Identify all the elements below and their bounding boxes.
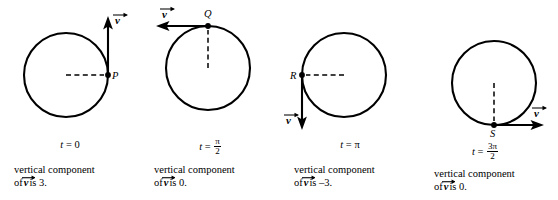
time-variable: t	[472, 146, 475, 157]
caption-line-1: vertical component	[434, 168, 515, 179]
time-value: π	[354, 139, 359, 150]
time-label-2: t = π2	[140, 137, 280, 156]
panel-3: R v t = π vertical component ofvis –3.	[280, 0, 420, 200]
point-label-p: P	[112, 71, 118, 82]
caption-line-1: vertical component	[14, 164, 95, 175]
velocity-label: v	[533, 108, 540, 119]
time-equals: =	[205, 141, 211, 152]
fraction-denominator: 2	[214, 146, 221, 156]
caption-3: vertical component ofvis –3.	[294, 164, 375, 189]
velocity-label: v	[161, 9, 168, 20]
caption-of: of	[434, 181, 443, 192]
panel-3-diagram	[280, 0, 420, 145]
fraction-numerator: 3π	[487, 142, 498, 151]
caption-is-value: is –3.	[309, 177, 332, 188]
vector-arrow-overbar-icon	[113, 12, 128, 18]
caption-line-2: ofvis –3.	[294, 177, 375, 190]
caption-of: of	[294, 177, 303, 188]
vector-v-glyph-caption: v	[303, 177, 310, 190]
caption-is-value: is 3.	[29, 177, 47, 188]
panel-4-diagram	[420, 0, 558, 145]
vector-arrow-overbar-icon	[160, 6, 175, 12]
vector-v-glyph-caption: v	[163, 177, 170, 190]
vector-arrow-overbar-icon	[532, 105, 547, 111]
caption-2: vertical component ofvis 0.	[154, 164, 235, 189]
caption-1: vertical component ofvis 3.	[14, 164, 95, 189]
panel-4: S v t = 3π2 vertical component ofvis 0.	[420, 0, 558, 200]
time-label-4: t = 3π2	[416, 142, 554, 161]
velocity-label: v	[114, 15, 121, 26]
caption-is-value: is 0.	[169, 177, 187, 188]
point-label-q: Q	[204, 9, 212, 20]
time-label-1: t = 0	[0, 140, 140, 151]
time-variable: t	[340, 139, 343, 150]
caption-is-value: is 0.	[449, 181, 467, 192]
time-variable: t	[199, 141, 202, 152]
time-equals: =	[346, 139, 352, 150]
vector-v-glyph-caption: v	[443, 181, 450, 194]
time-equals: =	[477, 146, 483, 157]
caption-of: of	[14, 177, 23, 188]
caption-line-2: ofvis 0.	[434, 181, 515, 194]
fraction-numerator: π	[214, 137, 221, 146]
time-label-3: t = π	[280, 140, 420, 151]
velocity-label: v	[285, 115, 292, 126]
time-fraction: 3π2	[487, 142, 498, 161]
caption-line-1: vertical component	[294, 164, 375, 175]
panel-2: Q v t = π2 vertical component ofvis 0.	[140, 0, 280, 200]
vector-v-glyph-caption: v	[23, 177, 30, 190]
panel-2-diagram	[140, 0, 280, 140]
vector-arrow-overbar-icon	[284, 112, 299, 118]
caption-of: of	[154, 177, 163, 188]
point-label-s: S	[490, 129, 495, 140]
time-fraction: π2	[214, 137, 221, 156]
caption-line-2: ofvis 3.	[14, 177, 95, 190]
caption-line-1: vertical component	[154, 164, 235, 175]
velocity-vector-figure: P v t = 0 vertical component ofvis 3. Q	[0, 0, 558, 200]
fraction-denominator: 2	[487, 151, 498, 161]
panel-1: P v t = 0 vertical component ofvis 3.	[0, 0, 140, 200]
caption-4: vertical component ofvis 0.	[434, 168, 515, 193]
caption-line-2: ofvis 0.	[154, 177, 235, 190]
point-label-r: R	[290, 71, 296, 82]
time-value: 0	[74, 139, 79, 150]
